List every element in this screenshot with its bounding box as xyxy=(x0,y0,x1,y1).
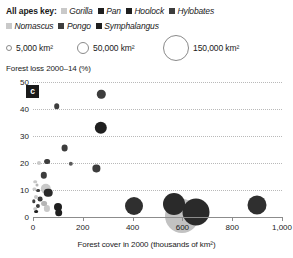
data-point-bubble[interactable] xyxy=(37,161,41,165)
species-legend-row-1: All apes key: Gorilla Pan Hoolock Hyloba… xyxy=(6,5,289,17)
legend-item-hoolock[interactable]: Hoolock xyxy=(126,6,164,16)
species-legend-row-2: Nomascus Pongo Symphalangus xyxy=(6,20,289,32)
x-tick-mark xyxy=(33,217,34,221)
y-axis-ticks: 01020304050 xyxy=(8,82,29,217)
y-gridline xyxy=(33,109,282,110)
legend-swatch-hylobates xyxy=(169,8,175,14)
data-point-bubble[interactable] xyxy=(33,207,37,211)
size-legend-item-medium[interactable]: 50,000 km² xyxy=(77,42,135,54)
data-point-bubble[interactable] xyxy=(41,172,47,178)
data-point-bubble[interactable] xyxy=(34,195,38,199)
y-gridline xyxy=(33,190,282,191)
data-point-bubble[interactable] xyxy=(183,198,210,225)
x-tick-label: 200 xyxy=(76,223,89,232)
legend-item-nomascus[interactable]: Nomascus xyxy=(6,21,53,31)
legend-swatch-pan xyxy=(98,8,104,14)
data-point-bubble[interactable] xyxy=(69,162,73,166)
species-legend: All apes key: Gorilla Pan Hoolock Hyloba… xyxy=(6,5,289,32)
data-point-bubble[interactable] xyxy=(93,165,100,172)
data-point-bubble[interactable] xyxy=(44,188,53,197)
data-point-bubble[interactable] xyxy=(163,193,185,215)
legend-item-symphalangus[interactable]: Symphalangus xyxy=(96,21,159,31)
data-point-bubble[interactable] xyxy=(38,197,43,202)
x-axis-label: Forest cover in 2000 (thousands of km²) xyxy=(0,240,293,249)
figure-panel: All apes key: Gorilla Pan Hoolock Hyloba… xyxy=(0,0,293,258)
legend-label-pan: Pan xyxy=(106,6,121,16)
y-tick-label: 40 xyxy=(9,105,29,114)
legend-item-hylobates[interactable]: Hylobates xyxy=(169,6,214,16)
panel-label: c xyxy=(26,85,39,98)
x-tick-mark xyxy=(133,217,134,221)
size-legend-label-medium: 50,000 km² xyxy=(93,43,135,53)
data-point-bubble[interactable] xyxy=(55,209,63,217)
legend-swatch-symphalangus xyxy=(96,23,102,29)
x-tick-mark xyxy=(282,217,283,221)
legend-swatch-gorilla xyxy=(61,8,67,14)
legend-item-gorilla[interactable]: Gorilla xyxy=(61,6,93,16)
size-legend: 5,000 km² 50,000 km² 150,000 km² xyxy=(6,36,289,60)
size-legend-item-large[interactable]: 150,000 km² xyxy=(163,35,239,61)
size-legend-label-small: 5,000 km² xyxy=(16,43,53,53)
legend-swatch-hoolock xyxy=(126,8,132,14)
legend-label-gorilla: Gorilla xyxy=(69,6,93,16)
y-tick-label: 10 xyxy=(9,186,29,195)
data-point-bubble[interactable] xyxy=(97,90,105,98)
x-tick-mark xyxy=(182,217,183,221)
y-tick-label: 0 xyxy=(9,213,29,222)
plot-area xyxy=(33,82,282,217)
legend-label-nomascus: Nomascus xyxy=(15,21,54,31)
x-tick-label: 1,000 xyxy=(272,223,292,232)
size-legend-circle-large xyxy=(163,35,189,61)
x-tick-label: 400 xyxy=(126,223,139,232)
legend-swatch-pongo xyxy=(58,23,64,29)
legend-label-hylobates: Hylobates xyxy=(178,6,214,16)
legend-label-pongo: Pongo xyxy=(67,21,91,31)
y-tick-label: 30 xyxy=(9,132,29,141)
x-tick-label: 800 xyxy=(226,223,239,232)
size-legend-label-large: 150,000 km² xyxy=(193,43,239,53)
x-tick-label: 600 xyxy=(176,223,189,232)
size-legend-circle-small xyxy=(6,45,12,51)
legend-label-hoolock: Hoolock xyxy=(134,6,164,16)
x-tick-label: 0 xyxy=(31,223,35,232)
y-axis-label: Forest loss 2000–14 (%) xyxy=(6,64,91,73)
y-tick-label: 20 xyxy=(9,159,29,168)
data-point-bubble[interactable] xyxy=(54,104,60,110)
legend-swatch-nomascus xyxy=(6,23,12,29)
size-legend-item-small[interactable]: 5,000 km² xyxy=(6,43,53,53)
data-point-bubble[interactable] xyxy=(61,145,68,152)
x-tick-mark xyxy=(232,217,233,221)
x-axis-line xyxy=(33,217,282,218)
y-gridline xyxy=(33,82,282,83)
legend-label-symphalangus: Symphalangus xyxy=(104,21,158,31)
data-point-bubble[interactable] xyxy=(95,122,107,134)
data-point-bubble[interactable] xyxy=(125,197,143,215)
legend-title: All apes key: xyxy=(6,6,57,16)
size-legend-circle-medium xyxy=(77,42,89,54)
data-point-bubble[interactable] xyxy=(32,200,35,203)
data-point-bubble[interactable] xyxy=(44,159,50,165)
legend-item-pan[interactable]: Pan xyxy=(98,6,121,16)
data-point-bubble[interactable] xyxy=(35,183,38,186)
data-point-bubble[interactable] xyxy=(247,195,266,214)
data-point-bubble[interactable] xyxy=(36,189,40,193)
legend-item-pongo[interactable]: Pongo xyxy=(58,21,90,31)
x-tick-mark xyxy=(83,217,84,221)
y-gridline xyxy=(33,136,282,137)
